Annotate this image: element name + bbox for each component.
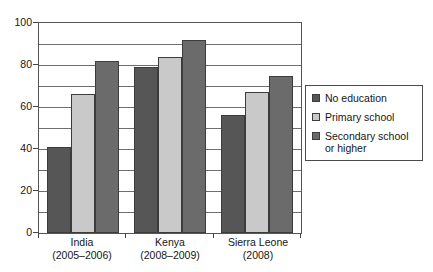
y-tick-label: 20 <box>2 185 32 195</box>
legend-item-label: Primary school <box>325 111 394 123</box>
bar-chart-figure: 020406080100 India(2005–2006)Kenya(2008–… <box>0 0 433 272</box>
bar <box>158 57 182 233</box>
bar-group <box>39 23 126 233</box>
bar <box>134 67 158 233</box>
x-tick-label: India(2005–2006) <box>38 236 126 262</box>
y-tick-label: 60 <box>2 101 32 111</box>
x-tick-mark <box>125 233 126 238</box>
x-tick-label-period: (2005–2006) <box>38 249 126 262</box>
legend-swatch-icon <box>312 132 320 140</box>
bar <box>269 76 293 234</box>
legend-swatch-icon <box>312 113 320 121</box>
y-tick-label: 100 <box>2 17 32 27</box>
x-tick-label-period: (2008–2009) <box>126 249 214 262</box>
x-tick-label-name: India <box>71 236 94 248</box>
bar <box>95 61 119 233</box>
y-axis: 020406080100 <box>0 22 32 232</box>
x-tick-mark <box>38 233 39 238</box>
bar-group <box>214 23 301 233</box>
y-tick-label: 0 <box>2 227 32 237</box>
bar-groups <box>39 23 301 233</box>
bar <box>47 147 71 233</box>
plot-area <box>38 22 302 234</box>
x-tick-label-name: Sierra Leone <box>228 236 288 248</box>
y-tick-label: 40 <box>2 143 32 153</box>
x-tick-mark <box>300 233 301 238</box>
legend-item: No education <box>312 92 417 104</box>
x-tick-label: Kenya(2008–2009) <box>126 236 214 262</box>
legend-item-label: Secondary school or higher <box>325 130 417 154</box>
chart-legend: No educationPrimary schoolSecondary scho… <box>305 85 423 161</box>
x-tick-label: Sierra Leone(2008) <box>214 236 302 262</box>
legend-swatch-icon <box>312 94 320 102</box>
x-tick-label-name: Kenya <box>155 236 185 248</box>
bar <box>182 40 206 233</box>
x-axis: India(2005–2006)Kenya(2008–2009)Sierra L… <box>38 236 302 262</box>
bar-group <box>126 23 213 233</box>
bar <box>71 94 95 233</box>
bar <box>221 115 245 233</box>
x-tick-label-period: (2008) <box>214 249 302 262</box>
legend-item: Secondary school or higher <box>312 130 417 154</box>
y-tick-label: 80 <box>2 59 32 69</box>
legend-item-label: No education <box>325 92 387 104</box>
legend-item: Primary school <box>312 111 417 123</box>
x-tick-mark <box>213 233 214 238</box>
bar <box>245 92 269 233</box>
